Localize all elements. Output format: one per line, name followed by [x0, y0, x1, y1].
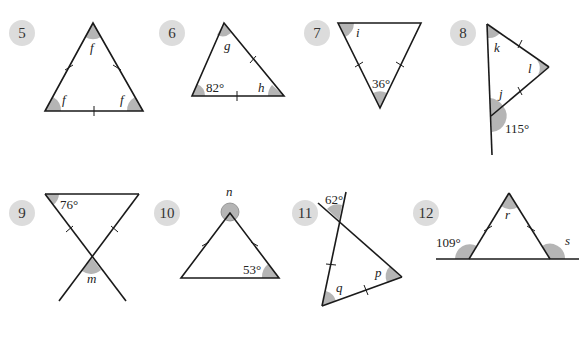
- angle-label: f: [90, 40, 96, 55]
- angle-marker-icon: [85, 23, 101, 39]
- angle-label: m: [87, 271, 96, 286]
- angle-label: p: [374, 265, 382, 280]
- angle-label: r: [505, 207, 511, 222]
- angle-label: 82°: [206, 80, 224, 95]
- triangle-q11: [318, 192, 402, 306]
- triangle-q5: [45, 23, 143, 116]
- exercise-page: 5 6 7 8 9 10 11 12: [0, 0, 587, 352]
- angle-label: f: [62, 92, 68, 107]
- angle-label: 36°: [372, 76, 390, 91]
- angle-label: n: [226, 184, 233, 199]
- angle-label: 62°: [325, 192, 343, 207]
- angle-label: 76°: [60, 197, 78, 212]
- angle-label: l: [528, 61, 532, 76]
- diagrams-canvas: f f f g 82° h i 36° k l j 115° 76° m n 5…: [0, 0, 587, 352]
- angle-label: q: [336, 280, 343, 295]
- angle-label: 53°: [243, 262, 261, 277]
- angle-label: 109°: [436, 235, 461, 250]
- angle-label: k: [494, 40, 500, 55]
- angle-label: h: [258, 80, 265, 95]
- angle-label: f: [120, 92, 126, 107]
- triangle-q7: [338, 23, 421, 108]
- angle-label: g: [224, 38, 231, 53]
- angle-label: 115°: [505, 121, 529, 136]
- triangle-q10: [181, 203, 279, 278]
- angle-marker-icon: [127, 97, 143, 111]
- angle-label: i: [356, 25, 360, 40]
- angle-label: j: [497, 86, 503, 101]
- angle-label: s: [565, 233, 570, 248]
- angle-marker-icon: [45, 97, 61, 111]
